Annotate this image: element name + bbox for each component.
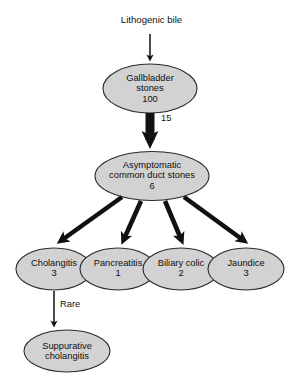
node-asymptomatic-common-duct-stones[interactable] xyxy=(95,152,209,201)
node-suppurative-cholangitis[interactable] xyxy=(24,330,110,372)
edge-label-rare: Rare xyxy=(60,299,80,309)
edge-asymptomatic-to-biliary-colic xyxy=(165,201,181,239)
edge-asymptomatic-to-jaundice xyxy=(184,197,243,240)
node-gallbladder-stones[interactable] xyxy=(103,64,197,113)
edge-asymptomatic-to-cholangitis xyxy=(62,197,122,240)
flowchart-canvas xyxy=(0,0,303,385)
node-jaundice[interactable] xyxy=(208,248,284,290)
source-label: Lithogenic bile xyxy=(0,14,303,25)
edge-asymptomatic-to-pancreatitis xyxy=(124,201,141,239)
edge-label-15: 15 xyxy=(161,113,171,123)
